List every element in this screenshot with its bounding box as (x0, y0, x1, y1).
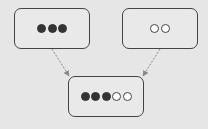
filled-dot-icon (91, 92, 100, 101)
filled-dot-icon (102, 92, 111, 101)
filled-dot-icon (58, 24, 67, 33)
node-result (68, 76, 144, 117)
hollow-dot-icon (112, 92, 121, 101)
filled-dot-icon (48, 24, 57, 33)
hollow-dot-icon (150, 24, 159, 33)
hollow-dot-icon (161, 24, 170, 33)
hollow-dot-icon (123, 92, 132, 101)
filled-dot-icon (81, 92, 90, 101)
arrow-right-to-result (143, 49, 160, 76)
arrow-left-to-result (52, 49, 69, 76)
node-right (122, 8, 198, 49)
filled-dot-icon (37, 24, 46, 33)
node-left (14, 8, 90, 49)
